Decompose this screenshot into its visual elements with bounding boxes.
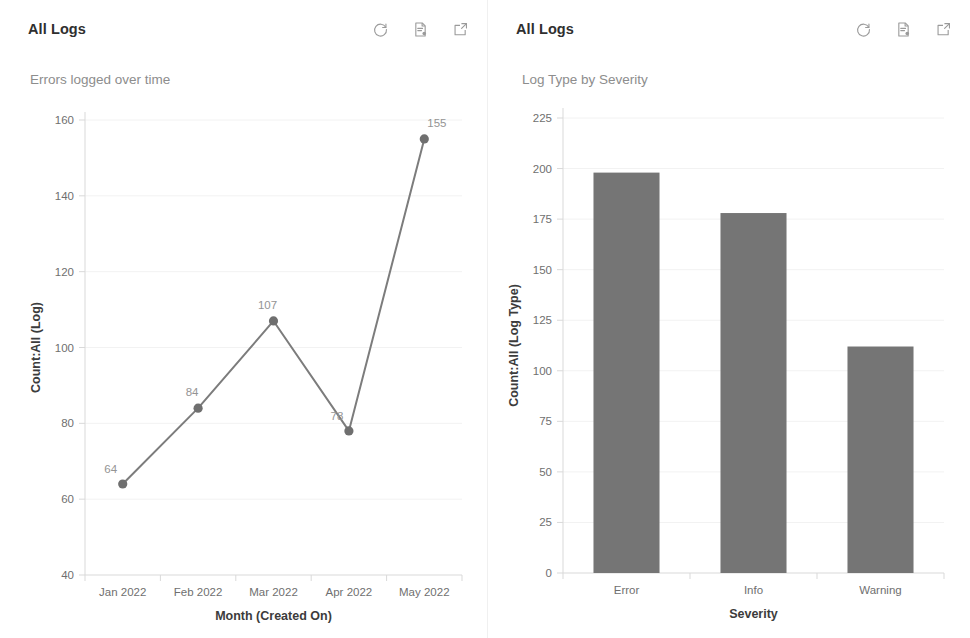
x-tick-label: Mar 2022 (249, 586, 298, 598)
y-tick-label: 75 (539, 415, 552, 427)
y-tick-label: 200 (533, 163, 552, 175)
popout-icon[interactable] (451, 20, 469, 38)
x-tick-label: May 2022 (399, 586, 450, 598)
panel-header-left: All Logs (0, 0, 487, 58)
data-point[interactable] (269, 316, 278, 325)
x-tick-label: Jan 2022 (99, 586, 146, 598)
y-tick-label: 150 (533, 264, 552, 276)
panel-header-right: All Logs (488, 0, 970, 58)
report-icon[interactable] (411, 20, 429, 38)
bar[interactable] (593, 173, 659, 573)
bar-chart-log-type-by-severity: 0255075100125150175200225ErrorInfoWarnin… (488, 0, 970, 638)
data-point-label: 84 (186, 386, 199, 398)
data-point-label: 64 (104, 463, 117, 475)
header-actions-left (371, 20, 469, 38)
y-axis-title: Count:All (Log) (29, 302, 43, 393)
y-tick-label: 100 (55, 342, 74, 354)
y-tick-label: 40 (61, 569, 74, 581)
x-tick-label: Feb 2022 (174, 586, 223, 598)
x-tick-label: Error (614, 584, 640, 596)
y-tick-label: 50 (539, 466, 552, 478)
y-tick-label: 60 (61, 493, 74, 505)
y-tick-label: 140 (55, 190, 74, 202)
y-tick-label: 100 (533, 365, 552, 377)
data-point[interactable] (118, 479, 127, 488)
y-tick-label: 120 (55, 266, 74, 278)
data-point-label: 107 (258, 299, 277, 311)
bar[interactable] (847, 347, 913, 573)
header-actions-right (854, 20, 952, 38)
x-axis-title: Severity (729, 607, 778, 621)
y-tick-label: 0 (546, 567, 552, 579)
data-point-label: 155 (427, 117, 446, 129)
refresh-icon[interactable] (854, 20, 872, 38)
panel-errors-over-time: All Logs (0, 0, 487, 638)
y-tick-label: 80 (61, 417, 74, 429)
line-series (123, 139, 425, 484)
x-tick-label: Apr 2022 (326, 586, 373, 598)
refresh-icon[interactable] (371, 20, 389, 38)
x-tick-label: Info (744, 584, 763, 596)
y-tick-label: 175 (533, 213, 552, 225)
page-title-left: All Logs (28, 21, 86, 37)
report-icon[interactable] (894, 20, 912, 38)
y-tick-label: 125 (533, 314, 552, 326)
y-tick-label: 160 (55, 114, 74, 126)
data-point[interactable] (420, 134, 429, 143)
x-tick-label: Warning (859, 584, 901, 596)
logs-dashboard: All Logs (0, 0, 970, 638)
line-chart-errors-over-time: 406080100120140160Jan 2022Feb 2022Mar 20… (0, 0, 487, 638)
data-point[interactable] (194, 404, 203, 413)
y-tick-label: 225 (533, 112, 552, 124)
page-title-right: All Logs (516, 21, 574, 37)
data-point[interactable] (344, 426, 353, 435)
y-axis-title: Count:All (Log Type) (507, 284, 521, 407)
popout-icon[interactable] (934, 20, 952, 38)
panel-log-type-by-severity: All Logs (487, 0, 970, 638)
x-axis-title: Month (Created On) (215, 609, 332, 623)
chart-subtitle-left: Errors logged over time (30, 72, 170, 87)
bar[interactable] (720, 213, 786, 573)
y-tick-label: 25 (539, 516, 552, 528)
chart-subtitle-right: Log Type by Severity (522, 72, 648, 87)
data-point-label: 78 (331, 410, 344, 422)
